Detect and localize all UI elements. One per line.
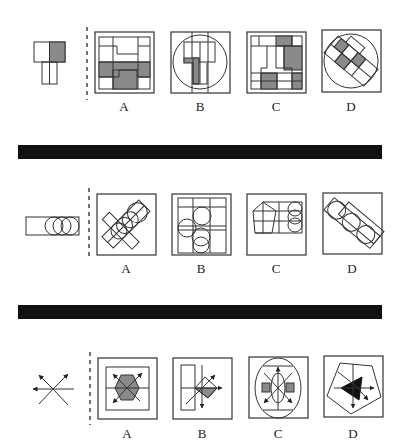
option-b-label: B bbox=[172, 426, 232, 442]
option-b-figure[interactable] bbox=[173, 358, 232, 419]
given-figure-rectangle-circles bbox=[26, 217, 79, 235]
option-b-label: B bbox=[171, 261, 231, 277]
puzzle-row-3: A B C D bbox=[0, 330, 401, 448]
option-c-label: C bbox=[246, 99, 306, 115]
section-divider-1 bbox=[18, 145, 382, 159]
option-d-label: D bbox=[322, 261, 382, 277]
option-c-figure[interactable] bbox=[247, 194, 306, 255]
option-a-figure[interactable] bbox=[98, 358, 157, 419]
option-c-label: C bbox=[248, 426, 308, 442]
puzzle-row-1: A B C D bbox=[0, 0, 401, 140]
row-2-figures bbox=[0, 175, 401, 300]
option-a-label: A bbox=[94, 99, 154, 115]
option-a-label: A bbox=[97, 426, 157, 442]
given-figure-crossing-arrows bbox=[33, 374, 74, 405]
puzzle-row-2: A B C D bbox=[0, 175, 401, 300]
option-c-figure[interactable] bbox=[247, 32, 306, 93]
section-divider-2 bbox=[18, 305, 382, 319]
option-d-figure[interactable] bbox=[322, 30, 383, 92]
option-b-label: B bbox=[170, 99, 230, 115]
given-figure-t-shape bbox=[34, 42, 65, 84]
option-d-label: D bbox=[321, 99, 381, 115]
option-b-figure[interactable] bbox=[172, 194, 231, 255]
option-a-figure[interactable] bbox=[95, 32, 154, 93]
option-d-label: D bbox=[323, 426, 383, 442]
option-c-figure[interactable] bbox=[249, 357, 308, 418]
option-c-label: C bbox=[246, 261, 306, 277]
option-d-figure[interactable] bbox=[324, 356, 383, 417]
option-a-figure[interactable] bbox=[97, 194, 156, 255]
option-b-figure[interactable] bbox=[171, 32, 230, 93]
option-d-figure[interactable] bbox=[323, 193, 384, 254]
option-a-label: A bbox=[96, 261, 156, 277]
row-1-figures bbox=[0, 0, 401, 140]
